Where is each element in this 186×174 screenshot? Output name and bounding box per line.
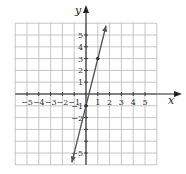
x-axis-label: x	[168, 94, 175, 107]
x-tick-label: −3	[45, 98, 57, 107]
y-tick-label: −2	[71, 114, 83, 123]
marked-point	[96, 57, 100, 61]
x-tick-label: −2	[57, 98, 69, 107]
y-tick-label: 3	[78, 55, 83, 64]
x-tick-label: −4	[33, 98, 45, 107]
marked-point	[84, 104, 88, 108]
x-tick-label: 5	[142, 98, 147, 107]
x-tick-label: 2	[107, 98, 112, 107]
coordinate-plane: −5−4−3−2−11234554321−1−2−5 x y	[0, 0, 186, 174]
x-axis-arrow-icon	[174, 91, 182, 97]
y-tick-label: 4	[78, 43, 83, 52]
y-tick-label: −1	[71, 102, 83, 111]
y-axis-arrow-icon	[83, 5, 89, 13]
x-tick-label: −5	[21, 98, 33, 107]
x-tick-label: 4	[131, 98, 136, 107]
y-tick-label: 5	[78, 31, 83, 40]
y-tick-label: 1	[78, 78, 83, 87]
x-tick-label: 1	[95, 98, 100, 107]
y-tick-label: 2	[78, 66, 83, 75]
y-axis-label: y	[74, 4, 82, 17]
x-tick-label: 3	[119, 98, 124, 107]
